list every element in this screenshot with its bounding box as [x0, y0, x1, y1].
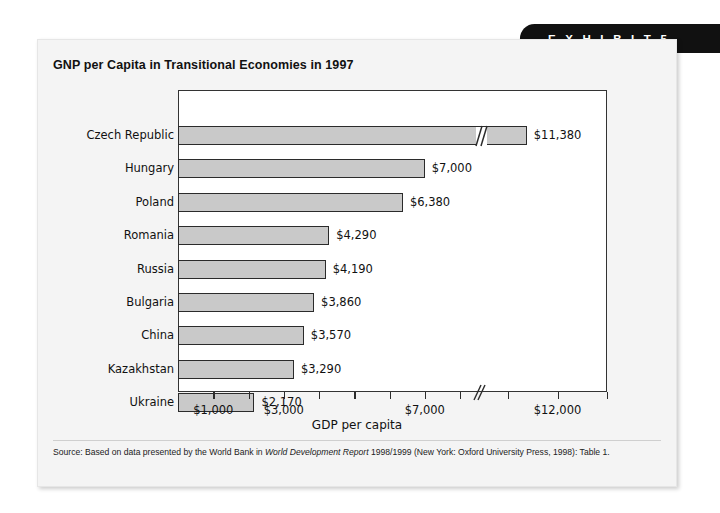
source-italic-title: World Development Report	[265, 447, 369, 457]
x-axis-tick-label: $1,000	[193, 403, 233, 417]
y-axis-label: Hungary	[46, 161, 174, 175]
x-axis-tick	[508, 392, 509, 399]
bar	[178, 260, 326, 279]
bar	[178, 126, 527, 145]
bar-value-label: $7,000	[432, 161, 472, 175]
x-axis-tick-label: $7,000	[405, 403, 445, 417]
bar	[178, 226, 329, 245]
bar-value-label: $4,290	[336, 228, 376, 242]
bar-value-label: $3,860	[321, 295, 361, 309]
y-axis-category-labels: Czech RepublicHungaryPolandRomaniaRussia…	[42, 90, 174, 392]
source-divider	[53, 440, 661, 441]
x-axis-tick	[460, 392, 461, 399]
y-axis-label: Czech Republic	[46, 128, 174, 142]
source-note: Source: Based on data presented by the W…	[53, 447, 661, 458]
x-axis-tick	[284, 392, 285, 399]
y-axis-label: Ukraine	[46, 395, 174, 409]
x-axis-tick	[607, 392, 608, 399]
y-axis-label: Kazakhstan	[46, 362, 174, 376]
x-axis-tick	[249, 392, 250, 399]
source-prefix: Source: Based on data presented by the W…	[53, 447, 265, 457]
x-axis-tick	[425, 392, 426, 399]
y-axis-label: Romania	[46, 228, 174, 242]
x-axis-tick	[319, 392, 320, 399]
chart-title: GNP per Capita in Transitional Economies…	[53, 58, 354, 72]
bars-layer: $11,380$7,000$6,380$4,290$4,190$3,860$3,…	[178, 90, 607, 392]
exhibit-card: GNP per Capita in Transitional Economies…	[37, 39, 677, 487]
bar-value-label: $6,380	[410, 195, 450, 209]
y-axis-label: Bulgaria	[46, 295, 174, 309]
x-axis-tick	[558, 392, 559, 399]
bar-value-label: $3,570	[311, 328, 351, 342]
bar	[178, 360, 294, 379]
bar-value-label: $3,290	[301, 362, 341, 376]
source-suffix: 1998/1999 (New York: Oxford University P…	[369, 447, 610, 457]
x-axis-break-icon	[470, 383, 488, 403]
x-axis-tick-label: $12,000	[534, 403, 582, 417]
y-axis-label: Russia	[46, 262, 174, 276]
bar-value-label: $11,380	[534, 128, 582, 142]
bar	[178, 293, 314, 312]
bar-value-label: $4,190	[333, 262, 373, 276]
x-axis-tick	[390, 392, 391, 399]
bar	[178, 193, 403, 212]
x-axis-title: GDP per capita	[38, 418, 676, 432]
x-axis-tick-label: $3,000	[264, 403, 304, 417]
bar	[178, 159, 425, 178]
x-axis-tick	[354, 392, 355, 399]
y-axis-label: Poland	[46, 195, 174, 209]
x-axis-tick	[213, 392, 214, 399]
y-axis-label: China	[46, 328, 174, 342]
bar	[178, 326, 304, 345]
